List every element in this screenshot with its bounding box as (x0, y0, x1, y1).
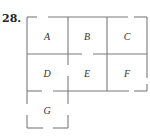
room-label-b: B (84, 31, 90, 42)
room-label-a: A (43, 31, 51, 42)
room-label-d: D (42, 68, 51, 79)
room-label-c: C (124, 31, 131, 42)
floor-plan-diagram: A B C D E F G (0, 0, 150, 139)
room-label-g: G (43, 105, 50, 116)
room-label-e: E (83, 68, 90, 79)
room-label-f: F (123, 68, 131, 79)
room-labels: A B C D E F G (42, 31, 131, 116)
